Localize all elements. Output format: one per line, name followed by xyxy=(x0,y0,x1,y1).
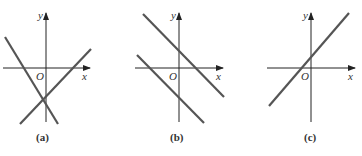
line-graphs-figure: y x O (a) y x O (b) y x O (c) xyxy=(0,0,362,156)
y-axis-label: y xyxy=(302,9,308,21)
panel-caption: (a) xyxy=(36,131,49,144)
line-positive-slope xyxy=(269,13,349,106)
x-axis-label: x xyxy=(81,70,87,82)
y-axis-label: y xyxy=(37,9,43,21)
panel-caption: (c) xyxy=(304,131,317,144)
line-upper-parallel xyxy=(143,14,224,97)
origin-label: O xyxy=(301,70,309,82)
origin-label: O xyxy=(169,70,177,82)
line-positive-slope xyxy=(20,49,91,124)
panel-caption: (b) xyxy=(170,131,184,144)
origin-label: O xyxy=(36,70,44,82)
y-axis-label: y xyxy=(170,9,176,21)
x-axis-label: x xyxy=(215,70,221,82)
panel-c: y x O (c) xyxy=(267,9,355,144)
panel-a: y x O (a) xyxy=(3,9,91,144)
panel-b: y x O (b) xyxy=(135,9,224,144)
x-axis-label: x xyxy=(347,70,353,82)
